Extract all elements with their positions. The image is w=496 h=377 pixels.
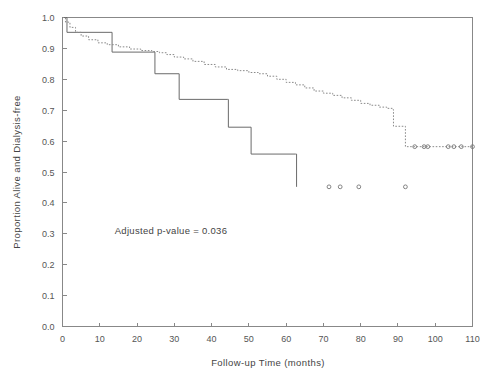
x-tick-label: 50: [244, 334, 254, 344]
x-tick-label: 60: [281, 334, 291, 344]
figure-background: [0, 0, 496, 377]
x-tick-label: 20: [132, 334, 142, 344]
y-axis-title: Proportion Alive and Dialysis-free: [11, 95, 22, 249]
x-tick-label: 100: [428, 334, 443, 344]
kaplan-meier-figure: 0102030405060708090100110 0.00.10.20.30.…: [0, 0, 496, 377]
x-tick-label: 40: [207, 334, 217, 344]
y-tick-label: 0.9: [42, 44, 55, 54]
y-tick-label: 1.0: [42, 13, 55, 23]
y-tick-label: 0.6: [42, 137, 55, 147]
x-tick-label: 80: [356, 334, 366, 344]
chart-annotations: Adjusted p-value = 0.036: [115, 225, 228, 236]
y-tick-label: 0.7: [42, 106, 55, 116]
y-tick-label: 0.3: [42, 229, 55, 239]
y-tick-label: 0.1: [42, 291, 55, 301]
chart-canvas: 0102030405060708090100110 0.00.10.20.30.…: [0, 0, 496, 377]
adjusted-p-value: Adjusted p-value = 0.036: [115, 225, 228, 236]
y-tick-label: 0.2: [42, 260, 55, 270]
y-tick-label: 0.4: [42, 198, 55, 208]
y-tick-label: 0.0: [42, 322, 55, 332]
x-tick-label: 90: [393, 334, 403, 344]
x-tick-label: 70: [318, 334, 328, 344]
y-tick-label: 0.8: [42, 75, 55, 85]
x-tick-label: 0: [60, 334, 65, 344]
y-tick-label: 0.5: [42, 168, 55, 178]
x-tick-label: 110: [465, 334, 479, 344]
x-tick-label: 10: [95, 334, 105, 344]
x-axis-title: Follow-up Time (months): [211, 357, 325, 368]
x-tick-label: 30: [169, 334, 179, 344]
